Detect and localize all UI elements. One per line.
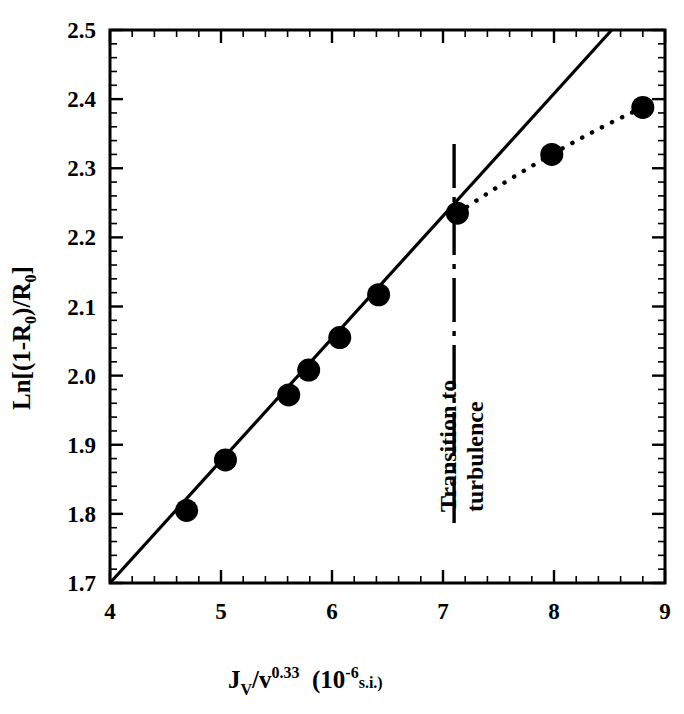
y-tick-label: 2.1 (67, 295, 96, 320)
x-tick-label: 6 (326, 599, 338, 624)
y-axis-title-sub2: 0 (22, 275, 39, 283)
y-tick-label: 2.2 (67, 225, 96, 250)
transition-annotation-line1: Transition to (435, 380, 461, 512)
y-axis-title-sub1: 0 (22, 316, 39, 324)
svg-text:JV/v0.33 (10-6s.i.): JV/v0.33 (10-6s.i.) (228, 664, 383, 698)
y-tick-label: 2.3 (67, 156, 96, 181)
x-axis-title-j-sub: V (241, 681, 253, 698)
x-axis-title-unit-open: (10 (312, 666, 345, 694)
data-point-marker (367, 283, 390, 306)
x-axis-title-unit-exp: -6 (345, 664, 358, 681)
data-point-marker (175, 499, 198, 522)
x-axis-title-unit-rest: s.i.) (359, 674, 383, 692)
x-axis-title-exponent: 0.33 (272, 664, 300, 681)
y-axis-title-middle: )/R (8, 282, 36, 316)
y-axis-title-suffix: ] (8, 266, 35, 274)
x-axis-title-space (300, 666, 313, 693)
svg-text:Ln[(1-R0)/R0]: Ln[(1-R0)/R0] (8, 266, 39, 410)
x-tick-label: 9 (659, 599, 671, 624)
x-tick-label: 8 (548, 599, 560, 624)
x-tick-label: 7 (437, 599, 449, 624)
data-point-marker (277, 383, 300, 406)
transition-annotation-line2: turbulence (462, 401, 488, 512)
y-tick-label: 2.4 (67, 87, 96, 112)
x-tick-label: 4 (104, 599, 116, 624)
transition-annotation: Transition to turbulence (435, 380, 488, 512)
y-tick-label: 1.7 (67, 571, 96, 596)
data-point-marker (540, 143, 563, 166)
scatter-plot: 456789 1.71.81.92.02.12.22.32.42.5 Trans… (0, 0, 684, 714)
plot-frame (110, 30, 665, 583)
figure-container: 456789 1.71.81.92.02.12.22.32.42.5 Trans… (0, 0, 684, 714)
x-tick-label: 5 (215, 599, 227, 624)
data-markers (175, 96, 654, 522)
y-axis-title-prefix: Ln[(1-R (8, 323, 36, 410)
y-tick-label: 2.0 (67, 364, 96, 389)
x-axis-title: JV/v0.33 (10-6s.i.) (228, 664, 383, 698)
x-tick-labels: 456789 (104, 599, 671, 624)
y-tick-labels: 1.71.81.92.02.12.22.32.42.5 (67, 18, 96, 596)
data-point-marker (297, 359, 320, 382)
data-point-marker (446, 202, 469, 225)
y-tick-label: 1.8 (67, 502, 96, 527)
y-axis-title: Ln[(1-R0)/R0] (8, 266, 39, 410)
x-axis-title-nu: /v (251, 666, 272, 693)
data-point-marker (214, 448, 237, 471)
y-tick-label: 1.9 (67, 433, 96, 458)
axis-ticks (110, 30, 665, 583)
data-point-marker (328, 326, 351, 349)
x-axis-title-j: J (228, 666, 241, 693)
data-point-marker (631, 96, 654, 119)
y-tick-label: 2.5 (67, 18, 96, 43)
